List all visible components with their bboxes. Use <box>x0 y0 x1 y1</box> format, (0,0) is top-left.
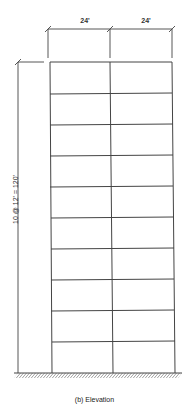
height-dimension-label: 10 @ 12' = 120' <box>12 160 19 240</box>
height-dimension-line <box>15 59 44 373</box>
elevation-drawing <box>0 0 189 410</box>
bay-dimension-label-2: 24' <box>131 17 161 24</box>
figure-caption: (b) Elevation <box>0 396 189 403</box>
bay-dimension-line <box>45 26 175 58</box>
ground-hatch <box>14 373 182 378</box>
bay-dimension-label-1: 24' <box>70 17 100 24</box>
